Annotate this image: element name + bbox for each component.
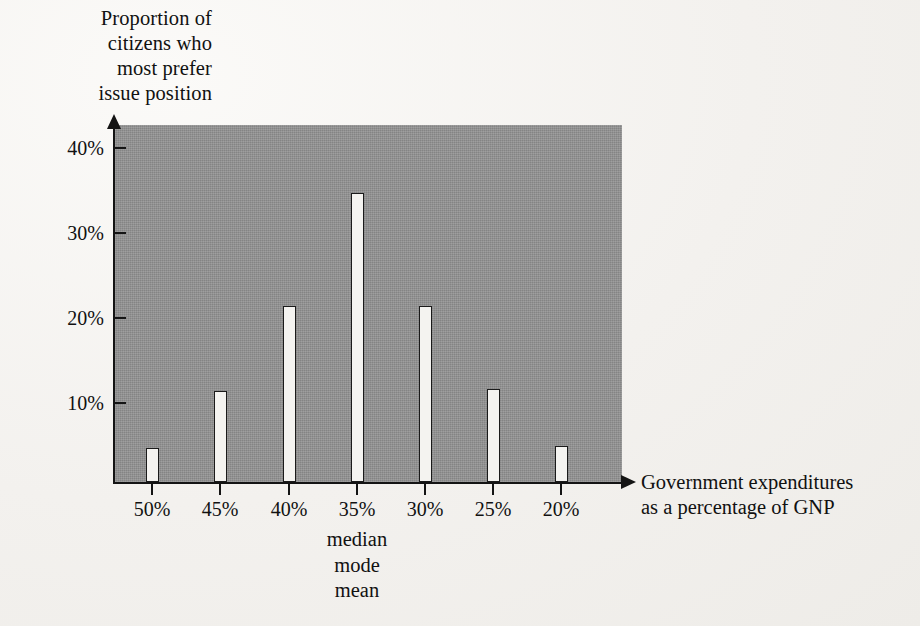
x-tick-label-40: 40% (254, 498, 324, 520)
y-axis-label-line-3: most prefer (0, 56, 212, 81)
annotation-mode: mode (287, 553, 427, 579)
y-axis-arrow-icon (107, 114, 121, 129)
y-tick-label-20: 20% (34, 308, 104, 328)
bar-series (115, 125, 622, 482)
x-tick-label-20: 20% (526, 498, 596, 520)
bar-25 (487, 389, 500, 483)
y-tick-label-40: 40% (34, 138, 104, 158)
x-tick-mark-40 (288, 483, 290, 495)
bar-45 (214, 391, 227, 482)
bar-20 (555, 446, 568, 482)
y-axis-line (113, 127, 115, 484)
central-tendency-annotation: median mode mean (287, 527, 427, 604)
y-axis-label: Proportion of citizens who most prefer i… (0, 6, 212, 106)
x-tick-label-25: 25% (458, 498, 528, 520)
x-tick-mark-25 (492, 483, 494, 495)
y-axis-label-line-4: issue position (0, 81, 212, 106)
bar-50 (146, 448, 159, 482)
annotation-median: median (287, 527, 427, 553)
bar-35 (351, 193, 364, 482)
x-tick-mark-45 (219, 483, 221, 495)
x-tick-mark-30 (424, 483, 426, 495)
x-axis-label-line-2: as a percentage of GNP (641, 495, 920, 520)
annotation-mean: mean (287, 578, 427, 604)
x-tick-mark-35 (356, 483, 358, 495)
x-axis-arrow-icon (621, 475, 636, 489)
x-axis-label-line-1: Government expenditures (641, 470, 920, 495)
y-tick-label-10: 10% (34, 393, 104, 413)
y-tick-mark-30 (113, 232, 126, 234)
bar-chart-figure: Proportion of citizens who most prefer i… (0, 0, 920, 626)
x-axis-line (113, 482, 623, 484)
x-axis-label: Government expenditures as a percentage … (641, 470, 920, 520)
bar-40 (283, 306, 296, 482)
y-tick-mark-10 (113, 402, 126, 404)
y-axis-label-line-1: Proportion of (0, 6, 212, 31)
y-tick-label-30: 30% (34, 223, 104, 243)
x-tick-label-45: 45% (185, 498, 255, 520)
y-tick-mark-40 (113, 147, 126, 149)
x-tick-mark-50 (151, 483, 153, 495)
y-axis-label-line-2: citizens who (0, 31, 212, 56)
y-tick-mark-20 (113, 317, 126, 319)
x-tick-label-30: 30% (390, 498, 460, 520)
x-tick-label-50: 50% (117, 498, 187, 520)
x-tick-mark-20 (560, 483, 562, 495)
x-tick-label-35: 35% (322, 498, 392, 520)
bar-30 (419, 306, 432, 482)
